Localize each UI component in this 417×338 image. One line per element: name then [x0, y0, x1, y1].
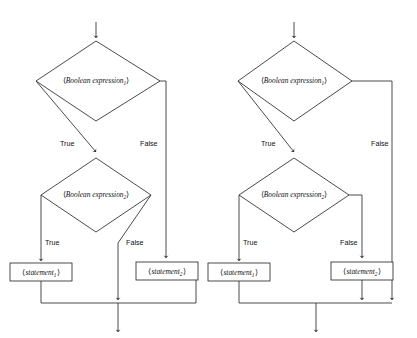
right-inner-false-label: False — [340, 238, 358, 247]
left-merge-rail — [41, 280, 196, 303]
left-outer-true-label: True — [60, 139, 75, 148]
right-merge-rail — [239, 281, 392, 303]
diagram-right: ⟨Boolean expression1⟩ True False ⟨Boolea… — [208, 22, 393, 332]
left-inner-decision-label: ⟨Boolean expression2⟩ — [63, 190, 130, 200]
flowchart-canvas: ⟨Boolean expression1⟩ True False ⟨Boolea… — [0, 0, 417, 338]
flowchart-figure: ⟨Boolean expression1⟩ True False ⟨Boolea… — [0, 0, 417, 338]
right-inner-false-edge — [349, 195, 362, 258]
left-outer-false-edge — [160, 81, 166, 258]
right-outer-decision-label: ⟨Boolean expression1⟩ — [261, 76, 328, 86]
right-inner-true-label: True — [243, 238, 258, 247]
right-outer-false-label: False — [371, 139, 389, 148]
left-inner-false-label: False — [126, 238, 144, 247]
left-outer-decision-label: ⟨Boolean expression1⟩ — [63, 76, 130, 86]
left-inner-true-label: True — [45, 238, 60, 247]
diagram-left: ⟨Boolean expression1⟩ True False ⟨Boolea… — [10, 22, 198, 332]
right-outer-true-label: True — [261, 139, 276, 148]
left-outer-false-label: False — [140, 139, 158, 148]
right-inner-decision-label: ⟨Boolean expression2⟩ — [261, 190, 328, 200]
left-inner-false-edge — [118, 195, 151, 300]
